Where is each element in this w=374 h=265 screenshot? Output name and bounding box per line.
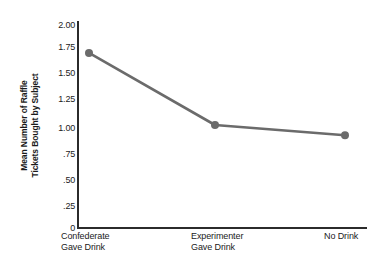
y-axis-tick-labels: 2.00 1.75 1.50 1.25 1.00 .75 .50 .25 0 xyxy=(42,0,75,265)
y-axis-title-line-1: Mean Number of Raffle xyxy=(19,73,30,177)
y-tick-label: 1.25 xyxy=(43,94,75,104)
data-point-marker xyxy=(211,121,219,129)
y-axis-line xyxy=(77,21,79,229)
y-tick-label: 2.00 xyxy=(43,20,75,30)
y-tick-label: 1.75 xyxy=(43,42,75,52)
y-tick-label: .50 xyxy=(43,175,75,185)
y-tick-label: 1.00 xyxy=(43,123,75,133)
x-tick-label-experimenter: Experimenter Gave Drink xyxy=(191,231,243,253)
y-tick-label: 1.50 xyxy=(43,68,75,78)
x-tick-label-line-1: Experimenter xyxy=(191,231,243,242)
x-tick-label-line-1: Confederate xyxy=(61,231,109,242)
x-tick-label-confederate: Confederate Gave Drink xyxy=(61,231,109,253)
y-axis-title-line-2: Tickets Bought by Subject xyxy=(29,73,40,177)
data-point-marker xyxy=(341,131,349,139)
x-tick-label-line-2: Gave Drink xyxy=(61,242,109,253)
y-tick-label: .75 xyxy=(43,149,75,159)
x-axis-line xyxy=(77,227,367,229)
x-tick-label-line-1: No Drink xyxy=(324,231,358,242)
series-line xyxy=(89,53,345,135)
line-chart-figure: Mean Number of Raffle Tickets Bought by … xyxy=(0,0,374,265)
y-axis-title: Mean Number of Raffle Tickets Bought by … xyxy=(14,22,44,228)
data-point-marker xyxy=(85,49,93,57)
y-tick-label: .25 xyxy=(43,201,75,211)
x-tick-label-line-2: Gave Drink xyxy=(191,242,243,253)
x-tick-label-no-drink: No Drink xyxy=(324,231,358,242)
series-markers xyxy=(85,49,349,139)
